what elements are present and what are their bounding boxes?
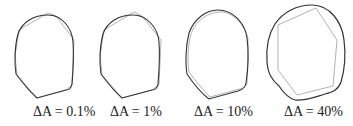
panel-4-approximation-outline: [278, 8, 337, 95]
panel-3-shapes: [186, 10, 248, 99]
panel-1-approximation-outline: [15, 13, 74, 98]
figure: ΔA = 0.1% ΔA = 1% ΔA = 10% ΔA = 40%: [0, 0, 353, 126]
panel-4-label: ΔA = 40%: [284, 104, 343, 120]
panel-1-label: ΔA = 0.1%: [33, 104, 95, 120]
panel-2-label: ΔA = 1%: [110, 104, 162, 120]
panel-3-reference-outline: [186, 10, 248, 99]
panel-2-shapes: [100, 12, 161, 98]
panel-3-approximation-outline: [188, 12, 248, 97]
panel-1-shapes: [15, 13, 74, 98]
panel-3-label: ΔA = 10%: [194, 104, 253, 120]
panel-4-shapes: [267, 5, 345, 100]
